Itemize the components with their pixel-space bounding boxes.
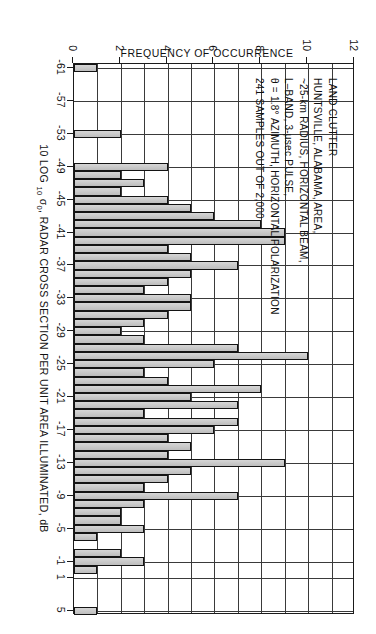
bar <box>74 171 121 179</box>
x-tick <box>67 561 73 562</box>
bar <box>74 393 191 401</box>
plot-area: LAND CLUTTER HUNTSVILLE, ALABAMA, AREA, … <box>73 63 354 614</box>
bar <box>74 261 238 269</box>
bar <box>74 467 191 475</box>
x-tick-label: -9 <box>55 490 67 500</box>
bar <box>74 163 168 171</box>
y-tick-label: 12 <box>348 39 360 51</box>
histogram-figure: LAND CLUTTER HUNTSVILLE, ALABAMA, AREA, … <box>0 0 376 634</box>
y-tick <box>353 57 354 63</box>
bar <box>74 278 168 286</box>
bar <box>74 426 215 434</box>
annotation-line-6: 241 SAMPLES OUT OF 2,000 <box>251 78 266 315</box>
bar <box>74 451 168 459</box>
x-tick <box>67 363 73 364</box>
bar <box>74 335 144 343</box>
bar <box>74 368 144 376</box>
bar <box>74 130 121 138</box>
x-tick <box>67 133 73 134</box>
x-tick-label: -37 <box>55 257 67 273</box>
x-tick <box>67 264 73 265</box>
bar <box>74 607 97 615</box>
x-tick <box>67 495 73 496</box>
bar <box>74 385 261 393</box>
annotation-line-4: L–BAND, 3-µsec PULSE, <box>281 78 296 315</box>
x-tick-label: -17 <box>55 421 67 437</box>
bar <box>74 179 144 187</box>
x-tick-label: -45 <box>55 191 67 207</box>
annotation-line-1: LAND CLUTTER <box>324 78 339 315</box>
figure-stage: LAND CLUTTER HUNTSVILLE, ALABAMA, AREA, … <box>0 0 376 634</box>
x-tick-label: -57 <box>55 92 67 108</box>
bar <box>74 557 144 565</box>
bar <box>74 286 144 294</box>
bar <box>74 409 144 417</box>
x-tick <box>67 396 73 397</box>
bar <box>74 475 168 483</box>
bar <box>74 483 144 491</box>
x-tick <box>67 330 73 331</box>
bar <box>74 401 238 409</box>
bar <box>74 245 168 253</box>
x-tick-label: -53 <box>55 125 67 141</box>
bar <box>74 294 191 302</box>
bar <box>74 212 215 220</box>
bar <box>74 64 97 72</box>
x-tick-label: -1 <box>55 556 67 566</box>
bar <box>74 253 191 261</box>
x-tick <box>67 297 73 298</box>
x-tick <box>67 429 73 430</box>
bar <box>74 492 238 500</box>
x-tick <box>67 232 73 233</box>
y-axis-title: FREQUENCY OF OCCURRENCE <box>67 47 348 59</box>
bar <box>74 327 121 335</box>
bar <box>74 434 168 442</box>
x-tick <box>67 577 73 578</box>
x-tick <box>67 462 73 463</box>
x-tick-label: -29 <box>55 322 67 338</box>
bar <box>74 566 97 574</box>
bar <box>74 549 121 557</box>
annotation-line-5: θ = 1.8° AZIMUTH, HORIZONTAL POLARIZATIO… <box>266 78 281 315</box>
bar <box>74 187 121 195</box>
x-tick <box>67 100 73 101</box>
bar <box>74 442 191 450</box>
annotation-line-3: ~25-km RADIUS, HORIZONTAL BEAM, <box>295 78 310 315</box>
bar <box>74 311 168 319</box>
x-tick-label: -5 <box>55 523 67 533</box>
x-tick-label: -49 <box>55 158 67 174</box>
bar <box>74 377 168 385</box>
x-tick <box>67 166 73 167</box>
x-axis-title: 10 LOG 10 σ0, RADAR CROSS SECTION PER UN… <box>35 63 50 614</box>
x-tick <box>67 199 73 200</box>
bar <box>74 516 121 524</box>
x-tick-label: -13 <box>55 454 67 470</box>
bar <box>74 500 144 508</box>
bar <box>74 196 168 204</box>
bar <box>74 352 308 360</box>
bar <box>74 360 215 368</box>
bar <box>74 459 285 467</box>
bar <box>74 508 121 516</box>
bar <box>74 525 144 533</box>
bar <box>74 270 191 278</box>
x-tick <box>67 610 73 611</box>
bar <box>74 344 238 352</box>
annotation-block: LAND CLUTTER HUNTSVILLE, ALABAMA, AREA, … <box>251 78 339 315</box>
bar <box>74 302 191 310</box>
bar <box>74 418 238 426</box>
bar <box>74 204 191 212</box>
x-tick <box>67 528 73 529</box>
bar <box>74 319 144 327</box>
x-tick-label: -61 <box>55 59 67 75</box>
x-tick-label: -21 <box>55 388 67 404</box>
bar <box>74 220 261 228</box>
bar <box>74 533 97 541</box>
x-tick-label: -25 <box>55 355 67 371</box>
x-tick-label: 1 <box>55 574 67 580</box>
x-tick-label: -41 <box>55 224 67 240</box>
x-tick-label: 5 <box>55 607 67 613</box>
x-tick-label: -33 <box>55 289 67 305</box>
x-tick <box>67 67 73 68</box>
annotation-line-2: HUNTSVILLE, ALABAMA, AREA, <box>310 78 325 315</box>
